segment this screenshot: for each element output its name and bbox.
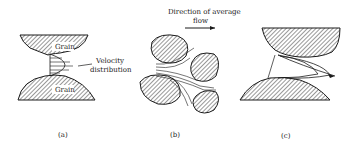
top-grain-label: Grain xyxy=(55,43,75,51)
grain-b2 xyxy=(191,53,219,81)
caption-b: (b) xyxy=(170,131,180,139)
grain-c-bottom xyxy=(240,77,330,100)
velocity-label-line1: Velocity xyxy=(96,57,124,65)
velocity-label-line2: distribution xyxy=(90,66,131,74)
panel-c xyxy=(240,28,340,100)
caption-c: (c) xyxy=(281,132,290,140)
flow-label-line1: Direction of average xyxy=(168,8,241,16)
grain-b1 xyxy=(151,35,188,63)
grain-b4 xyxy=(193,91,219,113)
panel-b xyxy=(140,26,219,113)
flow-label-line2: flow xyxy=(193,17,208,25)
bottom-grain-label: Grain xyxy=(55,86,75,94)
grain-c-top xyxy=(262,28,340,57)
pore-flow-diagram xyxy=(0,0,359,151)
caption-a: (a) xyxy=(58,131,68,139)
